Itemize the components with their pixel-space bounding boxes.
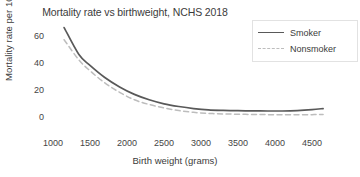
- legend-line-smoker: [258, 29, 284, 37]
- legend-line-nonsmoker: [258, 45, 284, 53]
- chart-legend: Smoker Nonsmoker: [252, 20, 358, 62]
- legend-item-nonsmoker: Nonsmoker: [258, 42, 336, 56]
- legend-label-smoker: Smoker: [290, 28, 321, 38]
- mortality-rate-chart: Mortality rate vs birthweight, NCHS 2018…: [0, 0, 360, 177]
- legend-label-nonsmoker: Nonsmoker: [290, 44, 336, 54]
- legend-item-smoker: Smoker: [258, 26, 321, 40]
